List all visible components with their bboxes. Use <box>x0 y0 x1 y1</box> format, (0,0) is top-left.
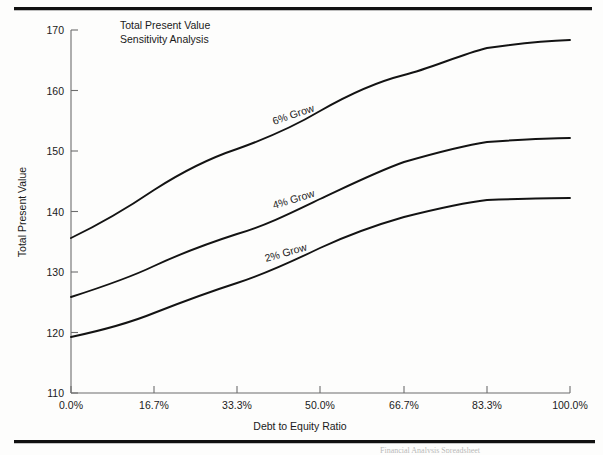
x-tick-label-0: 0.0% <box>59 399 83 411</box>
x-tick-marks <box>71 386 570 393</box>
bottom-divider-rule <box>14 440 595 443</box>
chart-title-line-1: Total Present Value <box>120 19 210 31</box>
x-axis-title: Debt to Equity Ratio <box>253 420 347 432</box>
x-tick-label-6: 100.0% <box>552 399 588 411</box>
x-tick-label-5: 83.3% <box>472 399 502 411</box>
curve-2-percent-grow <box>71 198 570 337</box>
y-tick-label-170: 170 <box>46 24 64 36</box>
x-tick-label-2: 33.3% <box>222 399 252 411</box>
x-tick-label-4: 66.7% <box>389 399 419 411</box>
y-tick-marks <box>71 30 78 393</box>
chart-title-line-2: Sensitivity Analysis <box>120 33 209 45</box>
sensitivity-line-chart: 170 160 150 140 130 120 110 0.0% 16.7% 3… <box>0 0 603 455</box>
y-tick-label-120: 120 <box>46 327 64 339</box>
y-tick-label-110: 110 <box>47 387 64 399</box>
series-label-4-percent: 4% Grow <box>271 187 316 211</box>
figure-page: 170 160 150 140 130 120 110 0.0% 16.7% 3… <box>0 0 603 455</box>
x-tick-label-3: 50.0% <box>305 399 335 411</box>
clipped-footer-caption: Financial Analysis Spreadsheet <box>380 446 595 453</box>
y-tick-label-130: 130 <box>46 266 64 278</box>
y-axis-title: Total Present Value <box>16 167 28 257</box>
curve-4-percent-grow <box>71 138 570 297</box>
series-label-6-percent: 6% Grow <box>271 101 316 127</box>
curve-6-percent-grow <box>71 40 570 238</box>
y-tick-label-140: 140 <box>46 206 64 218</box>
y-tick-label-160: 160 <box>46 85 64 97</box>
y-tick-label-150: 150 <box>46 145 64 157</box>
x-tick-label-1: 16.7% <box>139 399 169 411</box>
series-label-2-percent: 2% Grow <box>263 240 308 264</box>
